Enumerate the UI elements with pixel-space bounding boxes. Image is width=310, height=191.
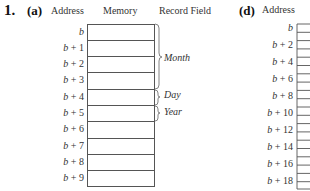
memory-table-d [0, 0, 310, 191]
